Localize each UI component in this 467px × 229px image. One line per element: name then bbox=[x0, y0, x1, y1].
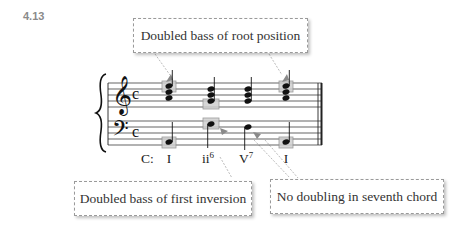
roman-numerals: C: I ii6 V7 I bbox=[141, 150, 289, 166]
leader-lines bbox=[155, 54, 298, 178]
brace bbox=[96, 74, 106, 152]
arrow-heads bbox=[166, 74, 289, 139]
doubling-highlights bbox=[162, 81, 293, 148]
bass-clef-icon: 𝄢 bbox=[112, 116, 129, 146]
treble-notes bbox=[165, 70, 291, 105]
callout-root-position: Doubled bass of root position bbox=[133, 18, 308, 53]
callout-seventh-chord: No doubling in seventh chord bbox=[270, 179, 444, 214]
chord-numeral-1: I bbox=[167, 151, 172, 166]
key-label: C: bbox=[141, 151, 154, 166]
time-signature-bass: c bbox=[132, 123, 139, 140]
chord-numeral-4: I bbox=[284, 151, 289, 166]
callout-first-inversion: Doubled bass of first inversion bbox=[74, 181, 252, 216]
chord-numeral-3: V7 bbox=[239, 150, 254, 166]
chord-numeral-2: ii6 bbox=[202, 150, 215, 166]
time-signature-treble: c bbox=[132, 85, 139, 102]
bass-notes bbox=[165, 120, 291, 150]
treble-clef-icon: 𝄞 bbox=[112, 74, 132, 116]
